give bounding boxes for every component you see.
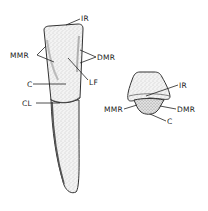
- incisal-outline: [128, 72, 170, 101]
- label-right-dmr: DMR: [177, 105, 195, 114]
- cingulum: [134, 99, 164, 115]
- label-right-c: C: [167, 117, 173, 126]
- left-tooth-view: [44, 24, 83, 193]
- label-left-lf: LF: [89, 78, 98, 87]
- label-left-dmr: DMR: [97, 53, 115, 62]
- tooth-diagram: IR MMR DMR LF C CL IR MMR DMR C: [0, 0, 208, 211]
- label-left-mmr: MMR: [10, 51, 29, 60]
- label-left-ir: IR: [81, 14, 89, 23]
- label-left-c: C: [27, 80, 33, 89]
- label-left-cl: CL: [22, 99, 33, 108]
- label-right-mmr: MMR: [104, 105, 123, 114]
- right-tooth-view: [128, 72, 170, 114]
- label-right-ir: IR: [179, 81, 187, 90]
